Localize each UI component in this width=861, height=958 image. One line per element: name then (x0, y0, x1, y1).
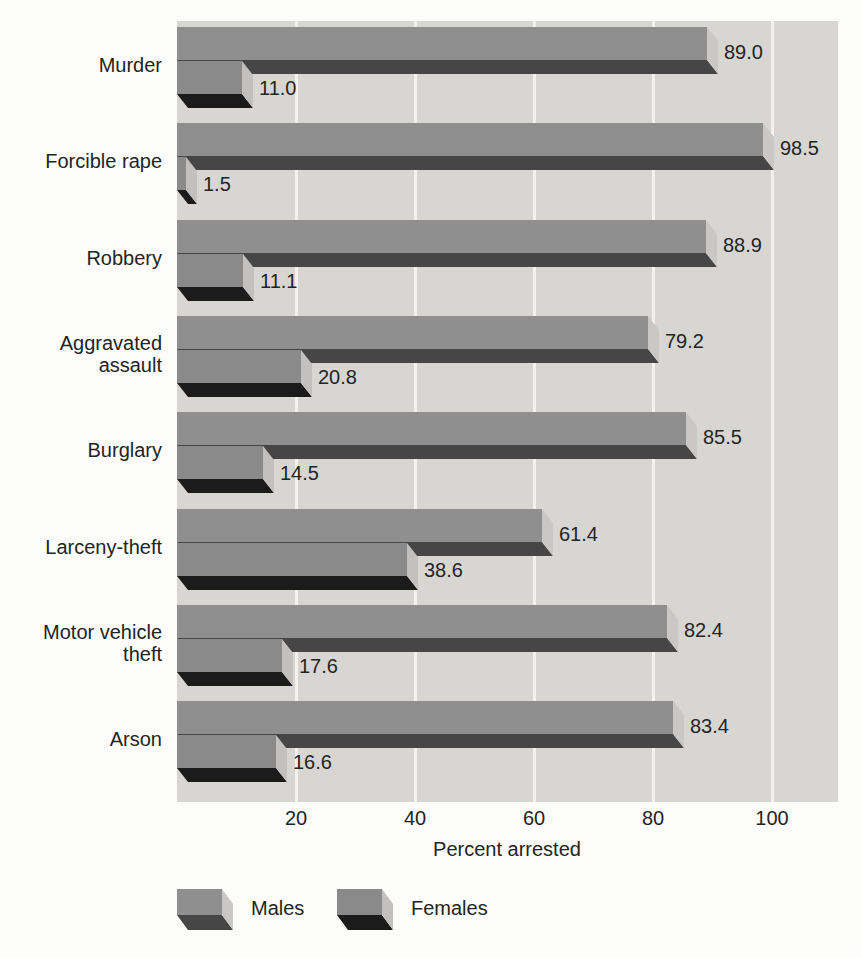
females-bottom-face (177, 383, 312, 397)
males-swatch-icon (177, 887, 234, 929)
males-bottom-face (177, 156, 774, 170)
x-tick-label: 100 (755, 807, 788, 830)
legend-label-females: Females (411, 897, 488, 920)
males-bar (177, 27, 718, 74)
females-bar (177, 254, 254, 301)
males-front-face (177, 316, 648, 349)
category-label: Motor vehicle theft (0, 621, 162, 666)
x-tick-label: 80 (642, 807, 664, 830)
females-bar (177, 157, 197, 204)
females-front-face (177, 350, 301, 383)
males-bottom-face (177, 253, 717, 267)
females-front-face (177, 254, 243, 287)
females-value-label: 16.6 (293, 751, 332, 774)
category-label: Aggravated assault (0, 332, 162, 377)
males-front-face (177, 701, 673, 734)
males-value-label: 88.9 (723, 234, 762, 257)
females-value-label: 11.0 (259, 77, 296, 100)
males-value-label: 85.5 (703, 426, 742, 449)
females-front-face (177, 543, 407, 576)
females-front-face (177, 157, 186, 190)
legend-females-bar (337, 889, 393, 930)
females-bar (177, 350, 312, 397)
females-value-label: 1.5 (203, 173, 231, 196)
males-value-label: 61.4 (559, 523, 598, 546)
category-label: Arson (0, 728, 162, 750)
males-front-face (177, 27, 707, 60)
females-front-face (177, 639, 282, 672)
females-bottom-face (177, 768, 287, 782)
females-front-face (177, 61, 242, 94)
category-label: Forcible rape (0, 150, 162, 172)
females-bar (177, 446, 274, 493)
males-front-face (177, 509, 542, 542)
males-value-label: 89.0 (724, 41, 763, 64)
males-bottom-face (177, 60, 718, 74)
category-label: Murder (0, 54, 162, 76)
females-value-label: 20.8 (318, 366, 357, 389)
females-bottom-face (177, 287, 254, 301)
males-value-label: 82.4 (684, 619, 723, 642)
females-bar (177, 735, 287, 782)
legend-label-males: Males (251, 897, 304, 920)
males-front-face (177, 220, 706, 253)
females-bottom-face (177, 94, 253, 108)
x-tick-label: 40 (404, 807, 426, 830)
females-value-label: 38.6 (424, 559, 463, 582)
legend-males-front-face (177, 889, 222, 915)
category-label: Burglary (0, 439, 162, 461)
females-bottom-face (177, 479, 274, 493)
category-label: Larceny-theft (0, 536, 162, 558)
females-bottom-face (177, 576, 418, 590)
females-bar (177, 639, 293, 686)
females-value-label: 14.5 (280, 462, 319, 485)
females-swatch-icon (337, 887, 394, 929)
males-value-label: 83.4 (690, 715, 729, 738)
females-bottom-face (177, 672, 293, 686)
x-tick-label: 20 (285, 807, 307, 830)
females-bar (177, 543, 418, 590)
females-front-face (177, 735, 276, 768)
males-front-face (177, 605, 667, 638)
x-axis-title: Percent arrested (433, 838, 581, 861)
males-value-label: 98.5 (780, 137, 819, 160)
chart-page: 89.011.0Murder98.51.5Forcible rape88.911… (0, 0, 861, 958)
males-bar (177, 220, 717, 267)
legend-males-bar (177, 889, 233, 930)
legend-item-males: Males (177, 885, 304, 931)
females-bar (177, 61, 253, 108)
females-value-label: 17.6 (299, 655, 338, 678)
males-bar (177, 123, 774, 170)
females-front-face (177, 446, 263, 479)
category-label: Robbery (0, 247, 162, 269)
legend-females-front-face (337, 889, 382, 915)
females-value-label: 11.1 (260, 270, 297, 293)
legend-item-females: Females (337, 885, 488, 931)
males-front-face (177, 123, 763, 156)
x-tick-label: 60 (523, 807, 545, 830)
males-value-label: 79.2 (665, 330, 704, 353)
males-front-face (177, 412, 686, 445)
plot-panel (177, 21, 838, 802)
